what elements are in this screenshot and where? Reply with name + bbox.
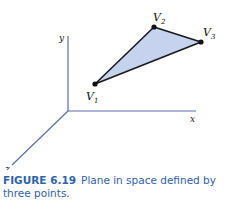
vertex-v3-point — [198, 39, 203, 44]
plane-diagram: y x z V1 V2 V3 — [0, 0, 228, 170]
vertex-v1-label: V1 — [86, 90, 98, 105]
vertex-v2-label: V2 — [153, 11, 166, 26]
z-axis-label: z — [4, 164, 10, 170]
vertex-v3-label: V3 — [203, 26, 216, 41]
z-axis — [12, 111, 68, 165]
figure-caption: FIGURE 6.19Plane in space defined by thr… — [3, 174, 225, 200]
plane-triangle — [95, 27, 201, 84]
vertex-v1-point — [92, 81, 97, 86]
figure-number: FIGURE 6.19 — [3, 174, 76, 186]
x-axis-label: x — [190, 114, 195, 124]
vertex-v2-point — [151, 24, 156, 29]
y-axis-label: y — [58, 33, 65, 43]
